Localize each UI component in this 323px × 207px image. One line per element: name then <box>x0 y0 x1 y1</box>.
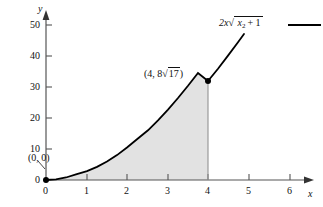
y-tick-label-20: 20 <box>20 112 40 123</box>
chart-figure: y x 50 40 30 20 10 0 0 1 2 3 4 5 6 (0, 0… <box>0 0 323 207</box>
x-tick-label-6: 6 <box>287 185 292 196</box>
curve-label-suffix: + 1 <box>247 17 260 28</box>
upper-point-label-radicand: 17 <box>168 67 180 79</box>
upper-point-label-prefix: (4, 8 <box>144 68 162 79</box>
y-tick-label-30: 30 <box>20 81 40 92</box>
y-tick-label-0: 0 <box>20 174 40 185</box>
x-axis-label: x <box>308 188 312 199</box>
upper-point-label: (4, 8√17) <box>144 68 183 79</box>
x-tick-label-5: 5 <box>246 185 251 196</box>
curve-label-radicand-exp: 2 <box>242 22 246 30</box>
x-tick-label-3: 3 <box>165 185 170 196</box>
y-tick-label-40: 40 <box>20 50 40 61</box>
origin-point-label: (0, 0) <box>28 152 50 163</box>
curve-label-prefix: 2x <box>219 17 228 28</box>
upper-point-marker <box>205 78 211 84</box>
y-tick-label-50: 50 <box>20 19 40 30</box>
x-tick-label-2: 2 <box>124 185 129 196</box>
shaded-area-under-curve <box>46 73 208 180</box>
curve-extension-beyond-x4 <box>208 34 244 81</box>
upper-point-label-suffix: ) <box>180 68 183 79</box>
y-axis-label: y <box>38 3 42 14</box>
plot-canvas <box>0 0 323 207</box>
origin-point-marker <box>43 177 49 183</box>
x-axis-arrowhead <box>304 177 314 184</box>
y-axis-arrowhead <box>43 10 50 20</box>
curve-legend-label: 2x√ x2+ 1 <box>219 17 263 30</box>
x-tick-label-1: 1 <box>84 185 89 196</box>
x-tick-label-0: 0 <box>43 185 48 196</box>
y-axis-ticks <box>46 25 52 149</box>
x-tick-label-4: 4 <box>205 185 210 196</box>
